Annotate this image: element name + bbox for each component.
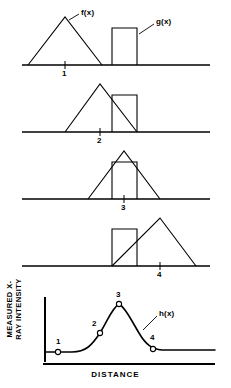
chart-marker-4-label: 4: [150, 334, 155, 342]
panel-4: [22, 218, 210, 270]
panel-1-fx-leader: [69, 14, 79, 20]
panel-1-rectangle-gx: [112, 28, 137, 65]
y-axis-label: MEASURED X-RAY INTENSITY: [5, 273, 23, 345]
chart-marker-1-label: 1: [56, 338, 61, 346]
panel-4-triangle-fx: [112, 218, 196, 266]
convolution-figure: [0, 0, 231, 388]
chart-marker-2-label: 2: [92, 320, 97, 328]
panel-1-triangle-fx: [28, 17, 102, 65]
panel-3: [22, 151, 210, 203]
panel-3-rectangle-gx: [112, 162, 137, 199]
chart-marker-4: [150, 346, 155, 351]
panel-3-step-number: 3: [121, 204, 126, 212]
chart-marker-3-label: 3: [116, 291, 121, 299]
chart-marker-1: [55, 349, 60, 354]
gx-label: g(x): [156, 18, 171, 26]
chart-marker-2: [97, 330, 102, 335]
panel-1: [22, 14, 210, 69]
x-axis-label: DISTANCE: [0, 370, 231, 379]
panel-2-triangle-fx: [65, 84, 137, 132]
panel-4-rectangle-gx: [112, 229, 137, 266]
chart-marker-3: [116, 301, 121, 306]
panel-3-triangle-fx: [88, 151, 160, 199]
panel-2-step-number: 2: [97, 137, 102, 145]
result-chart: [43, 297, 215, 364]
hx-label: h(x): [159, 310, 174, 318]
panel-4-step-number: 4: [157, 271, 162, 279]
panel-1-gx-leader: [139, 24, 154, 34]
chart-hx-leader: [143, 316, 157, 330]
fx-label: f(x): [81, 9, 94, 17]
chart-curve-hx: [45, 304, 215, 352]
panel-1-step-number: 1: [62, 70, 67, 78]
panel-2: [22, 84, 210, 136]
